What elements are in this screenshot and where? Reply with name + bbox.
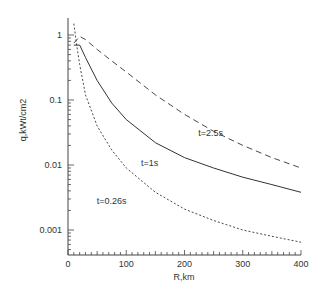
x-tick-label: 400 bbox=[293, 259, 308, 269]
series-line bbox=[74, 24, 301, 243]
x-tick-label: 100 bbox=[119, 259, 134, 269]
axes: 01002003004000.0010.010.11 bbox=[39, 18, 308, 269]
curve-label: t=0.26s bbox=[97, 196, 127, 206]
y-tick-label: 1 bbox=[57, 30, 62, 40]
y-tick-label: 0.01 bbox=[44, 160, 62, 170]
x-axis-label: R,km bbox=[174, 272, 195, 282]
x-tick-label: 300 bbox=[235, 259, 250, 269]
x-tick-label: 0 bbox=[65, 259, 70, 269]
series-line bbox=[74, 45, 301, 192]
y-tick-label: 0.001 bbox=[39, 225, 62, 235]
line-chart: 01002003004000.0010.010.11 t=2.5st=1st=0… bbox=[0, 0, 313, 288]
annotations: t=2.5st=1st=0.26s bbox=[97, 128, 224, 206]
y-tick-label: 0.1 bbox=[49, 95, 62, 105]
x-tick-label: 200 bbox=[177, 259, 192, 269]
curve-label: t=2.5s bbox=[198, 128, 223, 138]
y-axis-label: q,kWt/cm2 bbox=[18, 99, 28, 142]
series-group bbox=[74, 24, 301, 243]
series-line bbox=[74, 36, 301, 168]
curve-label: t=1s bbox=[141, 158, 159, 168]
